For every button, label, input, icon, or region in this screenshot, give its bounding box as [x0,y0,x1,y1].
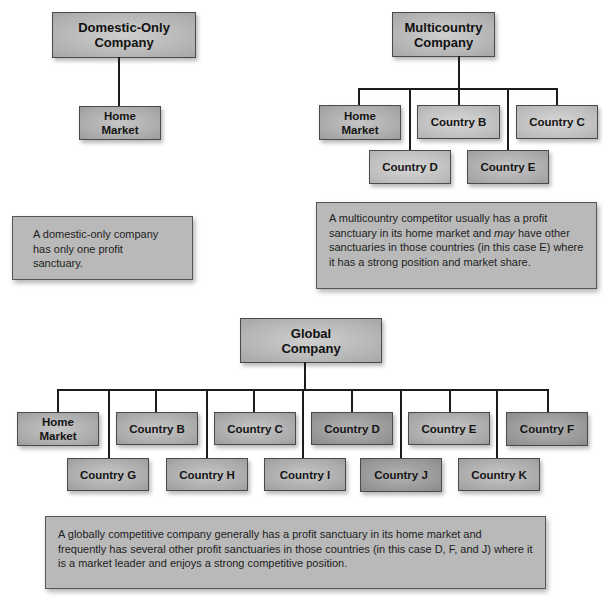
multicountry-company-box: Multicountry Company [392,12,495,57]
gl-country-h-label: Country H [179,468,235,482]
multicountry-trunk [458,56,460,90]
gl-drop-f [547,389,549,412]
gl-drop-home [57,389,59,412]
mc-country-e-box: Country E [467,150,549,184]
domestic-title-line1: Domestic-Only [78,20,170,35]
gl-home-line2: Market [39,429,76,443]
gl-drop-d [351,389,353,412]
gl-home-market-box: Home Market [17,412,99,446]
global-title-line1: Global [281,326,340,341]
mc-country-d-label: Country D [382,160,438,174]
gl-country-k-box: Country K [458,458,540,491]
gl-drop-b [155,389,157,412]
gl-country-g-box: Country G [67,458,149,491]
domestic-note: A domestic-only company has only one pro… [12,216,193,280]
mc-drop-d [409,88,411,150]
gl-country-i-label: Country I [280,468,330,482]
domestic-title-line2: Company [78,35,170,50]
mc-drop-b [458,88,460,106]
gl-country-c-box: Country C [214,412,296,445]
gl-country-j-box: Country J [360,458,442,492]
gl-country-k-label: Country K [471,468,527,482]
global-note-text: A globally competitive company generally… [58,528,532,569]
multicountry-title-line1: Multicountry [405,20,483,35]
multicountry-note-emphasis: may [494,227,515,239]
mc-country-c-box: Country C [516,105,598,139]
gl-drop-j [400,389,402,458]
gl-home-line1: Home [39,415,76,429]
home-market-line2: Market [101,123,138,137]
mc-drop-e [507,88,509,150]
mc-drop-c [556,88,558,106]
gl-country-b-label: Country B [129,422,185,436]
mc-home-market-box: Home Market [319,105,401,140]
gl-country-f-label: Country F [520,422,574,436]
home-market-line1: Home [101,109,138,123]
gl-country-d-box: Country D [311,412,393,445]
mc-country-d-box: Country D [369,150,451,184]
global-title-line2: Company [281,341,340,356]
gl-country-d-label: Country D [324,422,380,436]
gl-drop-i [302,389,304,458]
gl-country-j-label: Country J [374,468,428,482]
gl-country-g-label: Country G [80,468,136,482]
gl-drop-e [449,389,451,412]
domestic-only-company-box: Domestic-Only Company [52,12,196,58]
gl-country-c-label: Country C [227,422,283,436]
gl-country-h-box: Country H [166,458,248,491]
mc-country-c-label: Country C [529,115,585,129]
mc-country-b-box: Country B [417,105,500,139]
mc-home-line2: Market [341,123,378,137]
global-trunk [304,362,306,391]
domestic-home-market-box: Home Market [79,106,161,140]
mc-country-e-label: Country E [481,160,536,174]
gl-country-e-label: Country E [422,422,477,436]
mc-drop-home [358,88,360,106]
gl-drop-g [108,389,110,458]
gl-country-f-box: Country F [506,412,588,446]
multicountry-note: A multicountry competitor usually has a … [316,202,597,289]
gl-drop-h [206,389,208,458]
gl-drop-k [496,389,498,458]
domestic-note-text: A domestic-only company has only one pro… [33,228,158,269]
gl-drop-c [253,389,255,412]
global-note: A globally competitive company generally… [45,516,546,589]
mc-country-b-label: Country B [431,115,487,129]
gl-country-e-box: Country E [408,412,490,445]
gl-country-b-box: Country B [116,412,198,445]
domestic-connector [118,57,120,106]
multicountry-title-line2: Company [405,35,483,50]
global-company-box: Global Company [240,318,382,363]
gl-country-i-box: Country I [264,458,346,491]
mc-home-line1: Home [341,109,378,123]
